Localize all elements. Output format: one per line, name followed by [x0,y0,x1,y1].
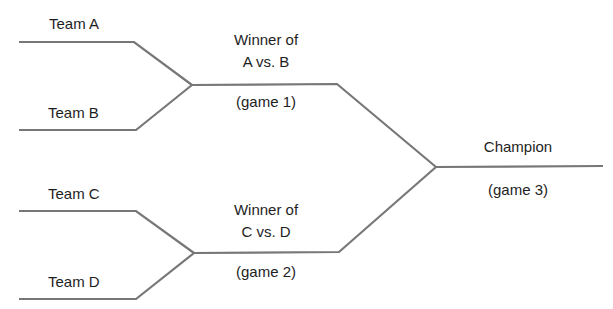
game1-label: (game 1) [206,93,326,110]
game2-label: (game 2) [206,263,326,280]
team-d-line [19,253,194,299]
team-c-line [19,211,194,253]
game2-title-line1: Winner of [206,199,326,221]
team-b-label: Team B [48,104,99,121]
game1-title-line1: Winner of [206,29,326,51]
champion-line [436,166,603,167]
game2-title: Winner of C vs. D [206,199,326,243]
game1-title-line2: A vs. B [206,51,326,73]
team-b-line [19,85,192,130]
game3-label: (game 3) [458,181,578,198]
game1-title: Winner of A vs. B [206,29,326,73]
team-d-label: Team D [48,273,100,290]
team-a-label: Team A [49,15,99,32]
game2-title-line2: C vs. D [206,221,326,243]
champion-title: Champion [458,138,578,155]
team-a-line [19,42,192,85]
team-c-label: Team C [48,185,100,202]
